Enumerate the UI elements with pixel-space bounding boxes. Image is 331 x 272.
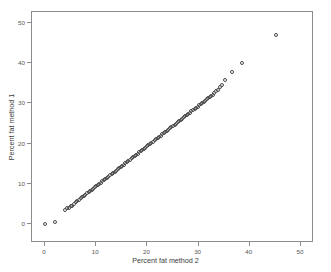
data-point-marker — [220, 83, 224, 87]
x-axis-tick-mark — [198, 242, 199, 246]
data-point-marker — [230, 70, 234, 74]
x-axis-tick-mark — [300, 242, 301, 246]
plot-area-frame — [31, 11, 313, 242]
x-axis-tick-label: 20 — [143, 248, 150, 255]
data-point-marker — [274, 33, 278, 37]
data-point-marker — [43, 222, 47, 226]
data-point-marker — [240, 61, 244, 65]
y-axis-tick-mark — [27, 62, 31, 63]
top-edge-artifact: · · · · · · — [0, 0, 331, 7]
x-axis-tick-mark — [146, 242, 147, 246]
x-axis-tick-mark — [249, 242, 250, 246]
y-axis-tick-mark — [27, 22, 31, 23]
x-axis-tick-label: 0 — [42, 248, 45, 255]
x-axis-tick-label: 10 — [92, 248, 99, 255]
x-axis-tick-mark — [44, 242, 45, 246]
y-axis-tick-mark — [27, 183, 31, 184]
x-axis-label: Percent fat method 2 — [0, 256, 331, 265]
data-point-marker — [223, 78, 227, 82]
scatter-plot-figure: · · · · · · 0102030405001020304050 Perce… — [0, 0, 331, 272]
y-axis-tick-mark — [27, 143, 31, 144]
x-axis-tick-mark — [95, 242, 96, 246]
x-axis-tick-label: 30 — [194, 248, 201, 255]
data-point-marker — [53, 220, 57, 224]
y-axis-tick-mark — [27, 223, 31, 224]
x-axis-tick-label: 50 — [297, 248, 304, 255]
x-axis-tick-label: 40 — [245, 248, 252, 255]
y-axis-tick-mark — [27, 102, 31, 103]
y-axis-label-container: Percent fat method 1 — [4, 0, 18, 253]
y-axis-label: Percent fat method 1 — [7, 94, 16, 161]
